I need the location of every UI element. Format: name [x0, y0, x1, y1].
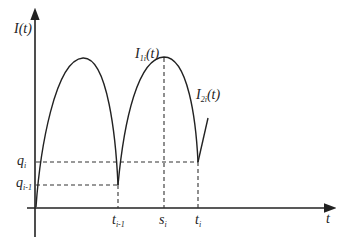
y-tick-q-i-1-base: q [16, 175, 23, 190]
x-tick-t-i-sub: i [199, 220, 201, 229]
y-tick-q-i: qi [17, 154, 26, 170]
inventory-diagram: I(t) I1i(t) I2i(t) qi qi-1 ti-1 si ti t [0, 0, 346, 244]
curve-label-i1-arg: (t) [146, 46, 159, 61]
y-axis-label: I(t) [14, 22, 32, 36]
y-tick-q-i-base: q [17, 153, 24, 168]
x-axis-label: t [326, 212, 330, 226]
x-tick-t-i-1: ti-1 [112, 213, 125, 229]
x-axis-label-text: t [326, 211, 330, 226]
curve-i2 [198, 118, 208, 162]
curve-previous-cycle [36, 58, 118, 207]
curve-i1 [118, 57, 198, 185]
y-tick-q-i-sub: i [24, 161, 26, 170]
x-tick-s-i-sub: i [164, 220, 166, 229]
y-tick-q-i-1: qi-1 [16, 176, 32, 192]
x-tick-s-i: si [159, 213, 167, 229]
y-axis-label-arg: (t) [19, 21, 32, 36]
diagram-canvas [0, 0, 346, 244]
x-tick-t-i-1-sub: i-1 [116, 220, 125, 229]
y-tick-q-i-1-sub: i-1 [23, 183, 32, 192]
curve-label-i1: I1i(t) [135, 47, 159, 63]
curve-label-i2-arg: (t) [207, 87, 220, 102]
curve-label-i2: I2i(t) [196, 88, 220, 104]
x-tick-t-i: ti [195, 213, 201, 229]
